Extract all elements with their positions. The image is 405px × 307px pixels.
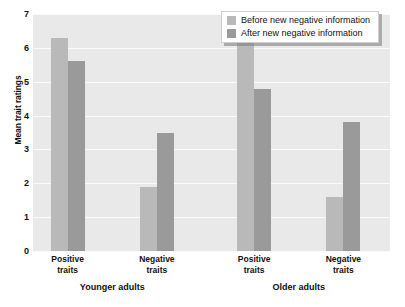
bar [68, 61, 85, 251]
x-axis-tick-label: Negativetraits [326, 254, 361, 275]
legend-item: Before new negative information [227, 14, 370, 26]
bar [343, 122, 360, 251]
y-axis-tick-label: 7 [3, 9, 29, 19]
x-axis-tick-label-line: traits [51, 265, 84, 276]
y-axis-tick-labels: 01234567 [0, 14, 29, 251]
bar [326, 197, 343, 251]
legend-item-label: After new negative information [241, 28, 363, 39]
bar [237, 38, 254, 251]
bar [51, 38, 68, 251]
chart-legend: Before new negative informationAfter new… [221, 11, 379, 43]
x-axis-tick-label-line: Negative [139, 254, 174, 265]
x-axis-tick-label: Positivetraits [51, 254, 84, 275]
y-axis-tick-label: 4 [3, 111, 29, 121]
x-axis-tick-label-line: traits [326, 265, 361, 276]
legend-swatch-icon [227, 16, 236, 25]
legend-item-label: Before new negative information [241, 15, 370, 26]
x-axis-tick-label: Negativetraits [139, 254, 174, 275]
x-axis-tick-label-line: traits [139, 265, 174, 276]
x-axis-group-label: Older adults [272, 282, 325, 292]
x-axis-tick-label-line: Positive [238, 254, 271, 265]
y-axis-tick-label: 5 [3, 77, 29, 87]
bar [254, 89, 271, 252]
gridline [33, 251, 390, 252]
x-axis-tick-label: Positivetraits [238, 254, 271, 275]
bar [157, 133, 174, 252]
x-axis-tick-label-line: Positive [51, 254, 84, 265]
x-axis-tick-label-line: Negative [326, 254, 361, 265]
x-axis-tick-labels: PositivetraitsNegativetraitsPositivetrai… [33, 254, 390, 280]
bar [140, 187, 157, 251]
bar-chart-figure: Mean trait ratings 01234567 Before new n… [0, 0, 405, 307]
bars-container [33, 14, 390, 251]
legend-item: After new negative information [227, 27, 370, 39]
y-axis-tick-label: 6 [3, 43, 29, 53]
x-axis-group-labels: Younger adultsOlder adults [33, 282, 390, 298]
x-axis-group-label: Younger adults [80, 282, 145, 292]
x-axis-tick-label-line: traits [238, 265, 271, 276]
plot-area [33, 14, 390, 251]
y-axis-tick-label: 2 [3, 178, 29, 188]
y-axis-tick-label: 3 [3, 144, 29, 154]
y-axis-tick-label: 0 [3, 246, 29, 256]
y-axis-tick-label: 1 [3, 212, 29, 222]
legend-swatch-icon [227, 29, 236, 38]
